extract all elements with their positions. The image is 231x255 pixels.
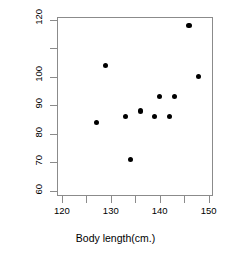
y-axis-tick-label: 60 bbox=[33, 184, 44, 195]
x-axis-tick-label: 140 bbox=[152, 205, 168, 216]
x-axis-tick-label: 120 bbox=[54, 205, 70, 216]
y-axis-tick bbox=[50, 162, 57, 163]
y-axis-tick bbox=[50, 20, 57, 21]
y-axis-tick-label: 80 bbox=[33, 127, 44, 138]
x-axis-tick bbox=[135, 196, 136, 203]
x-axis-title: Body length(cm.) bbox=[0, 232, 231, 244]
x-axis-tick bbox=[86, 196, 87, 203]
y-axis-tick bbox=[50, 48, 57, 49]
plot-frame bbox=[57, 17, 213, 196]
y-axis-tick bbox=[50, 77, 57, 78]
x-axis-tick-label: 130 bbox=[103, 205, 119, 216]
y-axis-tick-label: 100 bbox=[33, 66, 44, 82]
y-axis-tick bbox=[50, 105, 57, 106]
x-axis-tick bbox=[111, 196, 112, 203]
y-axis-tick bbox=[50, 191, 57, 192]
x-axis-tick bbox=[184, 196, 185, 203]
y-axis-tick bbox=[50, 134, 57, 135]
x-axis-tick bbox=[209, 196, 210, 203]
x-axis-tick bbox=[62, 196, 63, 203]
y-axis-tick-label: 120 bbox=[33, 9, 44, 25]
y-axis-tick-label: 90 bbox=[33, 98, 44, 109]
scatter-plot: Weight(lbs) Body length(cm.) 60708090100… bbox=[0, 0, 231, 255]
x-axis-tick-label: 150 bbox=[201, 205, 217, 216]
x-axis-tick bbox=[160, 196, 161, 203]
y-axis-tick-label: 70 bbox=[33, 155, 44, 166]
